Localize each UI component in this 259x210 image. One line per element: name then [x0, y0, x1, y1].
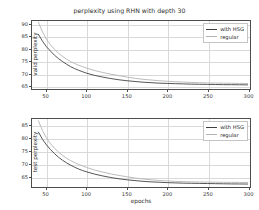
- x-tick-mark: [46, 90, 47, 92]
- legend-label-with-hsg: with HSG: [220, 124, 244, 130]
- x-tick-mark: [249, 188, 250, 190]
- x-tick-mark: [167, 188, 168, 190]
- x-tick-mark: [127, 188, 128, 190]
- x-tick-label: 150: [122, 93, 132, 99]
- legend-test: with HSG regular: [203, 121, 248, 141]
- legend-swatch-with-hsg: [206, 29, 217, 30]
- x-tick-label: 250: [203, 93, 213, 99]
- chart-panel-test: 6570758085 50100150200250300 test perple…: [31, 118, 251, 188]
- legend-label-regular: regular: [220, 34, 239, 40]
- y-tick-label: 85: [21, 33, 28, 39]
- y-tick-mark: [29, 138, 31, 139]
- x-tick-label: 150: [122, 191, 132, 197]
- legend-label-regular: regular: [220, 132, 239, 138]
- y-tick-mark: [29, 151, 31, 152]
- x-tick-mark: [249, 90, 250, 92]
- x-tick-mark: [167, 90, 168, 92]
- y-tick-mark: [29, 125, 31, 126]
- x-tick-mark: [127, 90, 128, 92]
- y-tick-label: 70: [21, 161, 28, 167]
- y-tick-mark: [29, 61, 31, 62]
- legend-item: with HSG: [206, 124, 244, 130]
- x-tick-label: 300: [244, 93, 254, 99]
- y-axis-label-valid: valid perplexity: [32, 26, 38, 82]
- y-tick-label: 80: [21, 135, 28, 141]
- x-tick-mark: [46, 188, 47, 190]
- legend-item: regular: [206, 132, 244, 138]
- x-tick-label: 250: [203, 191, 213, 197]
- y-tick-mark: [29, 177, 31, 178]
- x-tick-label: 300: [244, 191, 254, 197]
- y-tick-label: 85: [21, 122, 28, 128]
- y-tick-label: 70: [21, 71, 28, 77]
- x-axis-label-test: epochs: [31, 198, 251, 204]
- chart-panel-valid: 657075808590 50100150200250300 valid per…: [31, 20, 251, 90]
- y-tick-mark: [29, 74, 31, 75]
- x-tick-label: 50: [42, 93, 49, 99]
- legend-swatch-with-hsg: [206, 127, 217, 128]
- legend-label-with-hsg: with HSG: [220, 26, 244, 32]
- legend-item: regular: [206, 34, 244, 40]
- figure: perplexity using RHN with depth 30 65707…: [0, 0, 259, 210]
- y-tick-label: 90: [21, 21, 28, 27]
- page-title: perplexity using RHN with depth 30: [0, 7, 259, 14]
- legend-item: with HSG: [206, 26, 244, 32]
- y-tick-mark: [29, 24, 31, 25]
- y-tick-mark: [29, 86, 31, 87]
- x-tick-mark: [86, 188, 87, 190]
- legend-valid: with HSG regular: [203, 23, 248, 43]
- x-tick-mark: [86, 90, 87, 92]
- y-tick-mark: [29, 164, 31, 165]
- y-tick-label: 75: [21, 58, 28, 64]
- legend-swatch-regular: [206, 134, 217, 135]
- x-tick-label: 50: [42, 191, 49, 197]
- x-tick-label: 100: [81, 191, 91, 197]
- x-tick-label: 100: [81, 93, 91, 99]
- y-axis-label-test: test perplexity: [32, 124, 38, 180]
- x-tick-mark: [208, 188, 209, 190]
- y-tick-label: 75: [21, 148, 28, 154]
- y-tick-label: 65: [21, 83, 28, 89]
- y-tick-mark: [29, 49, 31, 50]
- legend-swatch-regular: [206, 36, 217, 37]
- y-tick-label: 65: [21, 174, 28, 180]
- y-tick-label: 80: [21, 46, 28, 52]
- y-tick-mark: [29, 36, 31, 37]
- x-tick-label: 200: [162, 93, 172, 99]
- x-tick-label: 200: [162, 191, 172, 197]
- x-tick-mark: [208, 90, 209, 92]
